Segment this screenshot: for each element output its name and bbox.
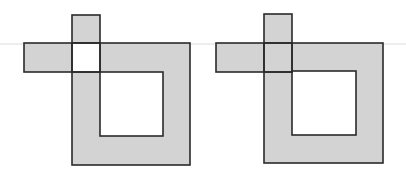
right-figure (216, 14, 383, 163)
right-horizontal-bar (216, 43, 292, 72)
diagram-canvas (0, 0, 406, 181)
left-figure (24, 15, 190, 165)
left-intersection-hole (72, 43, 100, 72)
